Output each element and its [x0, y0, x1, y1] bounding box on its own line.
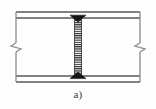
web-hatch-fill [75, 17, 82, 77]
figure-caption: а) [0, 88, 156, 101]
technical-figure: а) [0, 0, 156, 109]
web-plate [75, 17, 82, 77]
